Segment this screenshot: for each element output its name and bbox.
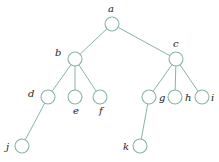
tree-diagram: abcdefghijk: [0, 0, 219, 162]
node-g: [142, 90, 156, 104]
node-label-k: k: [123, 141, 129, 152]
node-a: [105, 17, 119, 31]
node-d: [41, 90, 55, 104]
edge-b-d: [52, 65, 71, 92]
edge-d-j: [25, 103, 44, 140]
node-e: [68, 90, 82, 104]
node-label-d: d: [28, 88, 34, 99]
node-label-b: b: [55, 47, 61, 58]
edge-g-k: [141, 104, 147, 139]
node-label-h: h: [185, 92, 191, 103]
node-label-c: c: [173, 38, 179, 49]
edge-b-f: [79, 65, 96, 91]
node-i: [195, 90, 209, 104]
edge-a-b: [80, 29, 107, 54]
node-k: [133, 139, 147, 153]
node-c: [169, 52, 183, 66]
edge-c-h: [175, 66, 176, 90]
node-f: [93, 90, 107, 104]
node-h: [168, 90, 182, 104]
node-label-g: g: [159, 92, 165, 103]
node-label-f: f: [98, 105, 105, 116]
node-label-i: i: [211, 92, 214, 103]
node-label-j: j: [4, 141, 9, 152]
edge-c-g: [153, 65, 172, 92]
node-j: [15, 139, 29, 153]
nodes-group: [15, 17, 209, 153]
node-b: [68, 52, 82, 66]
edge-c-i: [180, 65, 198, 91]
node-label-a: a: [108, 3, 114, 14]
node-label-e: e: [73, 105, 79, 116]
edge-a-c: [118, 27, 170, 55]
